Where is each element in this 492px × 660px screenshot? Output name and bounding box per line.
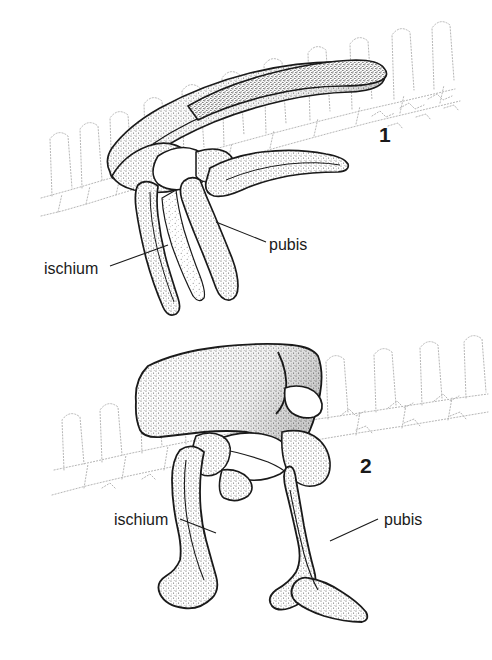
illustration-page: 1 2 ischium pubis ischium pubis bbox=[0, 0, 492, 660]
figure-1-number: 1 bbox=[379, 124, 391, 145]
pelvis-illustration-svg bbox=[0, 0, 492, 660]
figure-2-ischium-label: ischium bbox=[114, 512, 168, 528]
figure-2-number: 2 bbox=[360, 455, 372, 476]
figure-1-pubis-label: pubis bbox=[269, 237, 307, 253]
fig2-pubis-foot bbox=[291, 578, 367, 622]
fig2-pubis-leader-line bbox=[330, 519, 378, 541]
figure-2-pubis-label: pubis bbox=[384, 512, 422, 528]
figure-1-group bbox=[41, 22, 460, 315]
figure-1-ischium-label: ischium bbox=[44, 261, 98, 277]
figure-2-group bbox=[52, 336, 488, 622]
